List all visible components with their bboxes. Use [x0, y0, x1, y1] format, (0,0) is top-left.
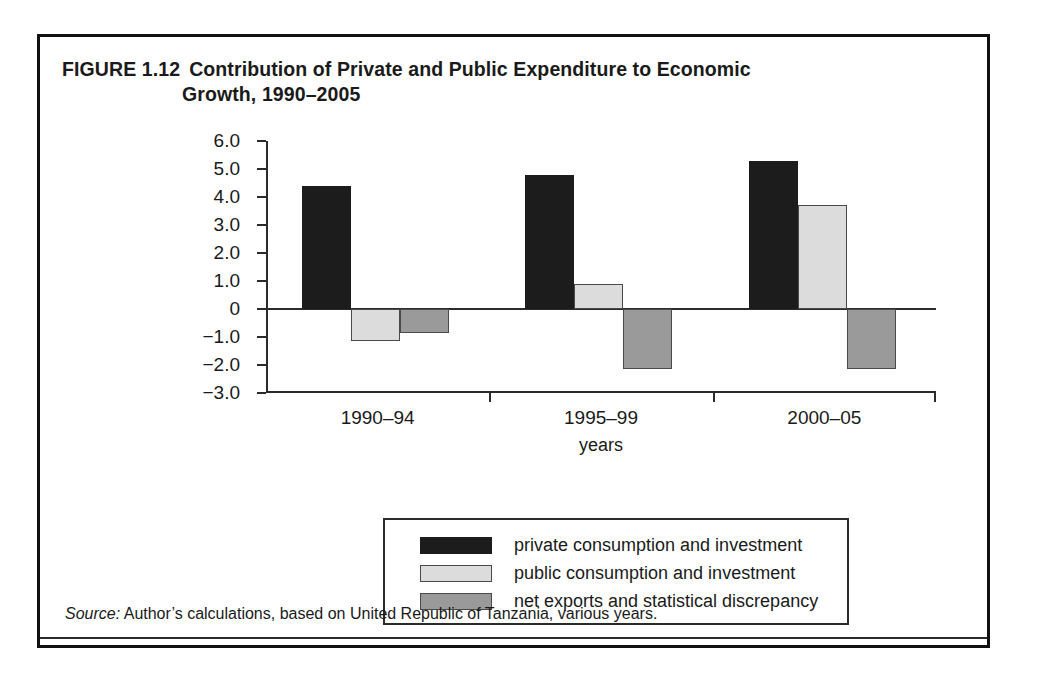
chart-plot-area: 6.05.04.03.02.01.00−1.0−2.0−3.0 1990–941… [266, 141, 936, 393]
y-tick-mark [257, 280, 266, 282]
figure-number: FIGURE 1.12 [62, 58, 180, 80]
legend-swatch-1 [420, 565, 492, 582]
y-tick-label: −1.0 [170, 327, 240, 346]
y-tick-label: 3.0 [170, 215, 240, 234]
x-tick-label: 1995–99 [489, 407, 712, 429]
y-tick-mark [257, 196, 266, 198]
figure-title-line2: Growth, 1990–2005 [182, 82, 952, 107]
bar-0-2 [749, 161, 798, 309]
bar-1-2 [798, 205, 847, 309]
bar-1-0 [351, 309, 400, 341]
y-tick-mark [257, 168, 266, 170]
y-tick-mark [257, 224, 266, 226]
y-tick-mark [257, 336, 266, 338]
y-tick-label: 4.0 [170, 187, 240, 206]
y-tick-mark [257, 308, 266, 310]
legend-label: private consumption and investment [514, 535, 802, 556]
x-tick-mark-end [934, 391, 936, 402]
x-tick-label: 2000–05 [713, 407, 936, 429]
y-tick-label: −2.0 [170, 355, 240, 374]
y-tick-label: 1.0 [170, 271, 240, 290]
source-label: Source: [65, 605, 120, 622]
x-tick-mark [489, 391, 491, 402]
x-axis-title: years [266, 435, 936, 456]
y-tick-mark [257, 364, 266, 366]
y-tick-label: 6.0 [170, 131, 240, 150]
x-tick-label: 1990–94 [266, 407, 489, 429]
legend-label: public consumption and investment [514, 563, 795, 584]
source-note: Source: Author’s calculations, based on … [65, 605, 657, 623]
x-tick-mark [713, 391, 715, 402]
figure-title: FIGURE 1.12Contribution of Private and P… [62, 57, 952, 107]
y-tick-mark [257, 252, 266, 254]
bar-2-2 [847, 309, 896, 369]
y-tick-mark [257, 140, 266, 142]
legend-item: private consumption and investment [385, 531, 847, 559]
bar-group [489, 141, 712, 393]
bar-2-0 [400, 309, 449, 333]
y-tick-label: 0 [170, 299, 240, 318]
bar-group [266, 141, 489, 393]
y-tick-label: 2.0 [170, 243, 240, 262]
legend-item: public consumption and investment [385, 559, 847, 587]
y-axis-tick-labels: 6.05.04.03.02.01.00−1.0−2.0−3.0 [162, 141, 254, 393]
y-tick-label: 5.0 [170, 159, 240, 178]
bar-2-1 [623, 309, 672, 369]
bar-1-1 [574, 284, 623, 309]
bar-group [713, 141, 936, 393]
y-tick-label: −3.0 [170, 383, 240, 402]
bar-0-1 [525, 175, 574, 309]
y-tick-mark [257, 392, 266, 394]
source-divider [40, 637, 987, 639]
bar-0-0 [302, 186, 351, 309]
legend-swatch-0 [420, 537, 492, 554]
source-text: Author’s calculations, based on United R… [120, 605, 657, 622]
figure-title-line1: Contribution of Private and Public Expen… [189, 58, 751, 80]
figure-panel: FIGURE 1.12Contribution of Private and P… [37, 34, 990, 648]
